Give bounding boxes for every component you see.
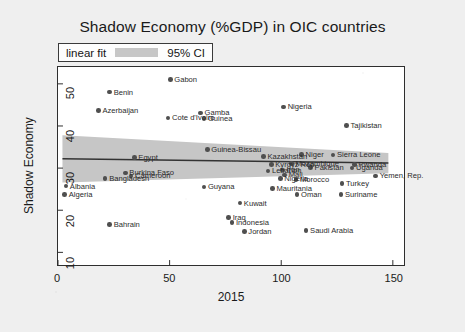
data-point-label: Saudi Arabia xyxy=(310,227,353,235)
data-point-label: Nigeria xyxy=(288,103,312,111)
data-point xyxy=(281,105,286,110)
data-point-label: Turkey xyxy=(346,180,369,188)
y-tick-label: 50 xyxy=(64,82,76,104)
x-tick-label: 100 xyxy=(270,272,294,284)
data-point-label: Sierra Leone xyxy=(337,151,380,159)
data-point xyxy=(226,215,231,220)
data-point xyxy=(261,154,266,159)
data-point-label: Bahrain xyxy=(114,221,140,229)
data-point-label: Morocco xyxy=(300,176,329,184)
data-point xyxy=(340,181,345,186)
data-point xyxy=(62,192,67,197)
data-point xyxy=(242,229,247,234)
data-point-label: Jordan xyxy=(248,228,271,236)
data-point-label: Oman xyxy=(301,191,322,199)
x-axis-label: 2015 xyxy=(191,290,271,304)
y-tick-label: 40 xyxy=(64,125,76,147)
y-axis-label: Shadow Economy xyxy=(22,117,36,214)
data-point-label: Guyana xyxy=(208,183,235,191)
data-point-label: Bangladesh xyxy=(109,175,149,183)
data-point xyxy=(304,228,309,233)
y-tick-label: 10 xyxy=(64,252,76,274)
data-point-label: Indonesia xyxy=(236,219,269,227)
data-point-label: Suriname xyxy=(345,191,378,199)
plot-area: GabonBeninAzerbaijanCote d'IvoireGambaGu… xyxy=(57,66,405,266)
data-point-label: Kuwait xyxy=(244,200,267,208)
data-point xyxy=(132,155,137,160)
x-tick-label: 0 xyxy=(45,272,69,284)
data-point-label: Azerbaijan xyxy=(102,107,138,115)
data-point xyxy=(339,192,344,197)
legend-label-linear-fit: linear fit xyxy=(66,47,106,59)
y-tick-label: 30 xyxy=(64,167,76,189)
data-point-label: Algeria xyxy=(69,191,93,199)
x-tick-label: 150 xyxy=(382,272,406,284)
legend-label-ci: 95% CI xyxy=(167,47,205,59)
data-point xyxy=(168,77,173,82)
data-point-label: Niger xyxy=(306,151,324,159)
data-point xyxy=(278,176,283,181)
data-point-label: Guinea-Bissau xyxy=(211,146,261,154)
data-point xyxy=(205,147,210,152)
data-point xyxy=(107,222,112,227)
data-point-label: Benin xyxy=(114,89,133,97)
legend-swatch-ci xyxy=(115,48,158,57)
data-point-label: Uganda xyxy=(356,164,383,172)
data-point xyxy=(270,186,275,191)
data-point xyxy=(96,108,101,113)
data-point-label: Gabon xyxy=(174,76,197,84)
y-tick-label: 20 xyxy=(64,210,76,232)
data-point-label: Tajikistan xyxy=(351,122,382,130)
data-point xyxy=(344,123,349,128)
data-point-label: Guinea xyxy=(208,115,233,123)
x-tick-label: 50 xyxy=(157,272,181,284)
data-point-label: Pakistan xyxy=(315,164,344,172)
data-point xyxy=(373,174,378,179)
chart-legend: linear fit 95% CI xyxy=(58,43,213,62)
chart-title: Shadow Economy (%GDP) in OIC countries xyxy=(0,18,465,36)
chart-figure: Shadow Economy (%GDP) in OIC countries l… xyxy=(0,0,465,332)
data-point-label: Egypt xyxy=(138,154,157,162)
data-point-label: Yemen, Rep. xyxy=(380,172,424,180)
